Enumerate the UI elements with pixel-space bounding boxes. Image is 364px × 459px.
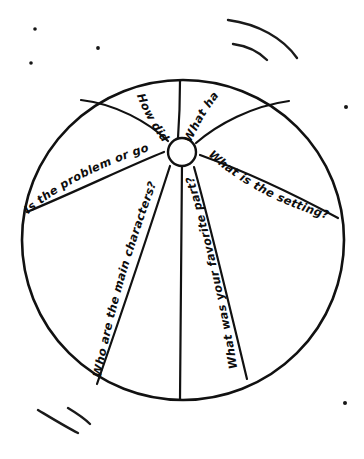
speck-top-left-lower [29, 61, 33, 65]
ball-outline-group [22, 80, 344, 400]
motion-arc-top-right-outer [228, 20, 297, 58]
beach-ball-illustration: Is the problem or goal? How did it What … [0, 0, 364, 459]
question-label-setting: What is the setting? [206, 147, 331, 222]
question-label-main-characters: Who are the main characters? [90, 179, 159, 378]
seam-top-center [178, 81, 180, 138]
question-text-problem-goal: Is the problem or goal? [0, 0, 150, 217]
question-text-what-happened: What hap [0, 0, 222, 145]
ball-seams-group [27, 81, 338, 399]
speck-right-lower [343, 401, 347, 405]
seam-bottom-center [180, 163, 182, 399]
motion-arc-top-right-inner [233, 44, 267, 60]
speck-top-center-left [96, 46, 100, 50]
question-text-favorite-part: What was your favorite part? [182, 175, 240, 370]
speck-top-left [33, 27, 37, 31]
question-text-main-characters: Who are the main characters? [90, 179, 159, 378]
motion-arc-bottom-left-long [38, 410, 78, 433]
question-label-favorite-part: What was your favorite part? [182, 175, 240, 370]
question-label-what-happened: What hap [0, 0, 222, 145]
speck-right-upper [344, 105, 348, 109]
question-label-problem-goal: Is the problem or goal? [0, 0, 150, 217]
question-rotated-setting: What is the setting? [206, 147, 331, 222]
worksheet-canvas: Is the problem or goal? How did it What … [0, 0, 364, 459]
question-text-setting: What is the setting? [206, 147, 331, 222]
motion-arc-bottom-left-short [68, 408, 90, 424]
ball-outline [22, 80, 344, 400]
